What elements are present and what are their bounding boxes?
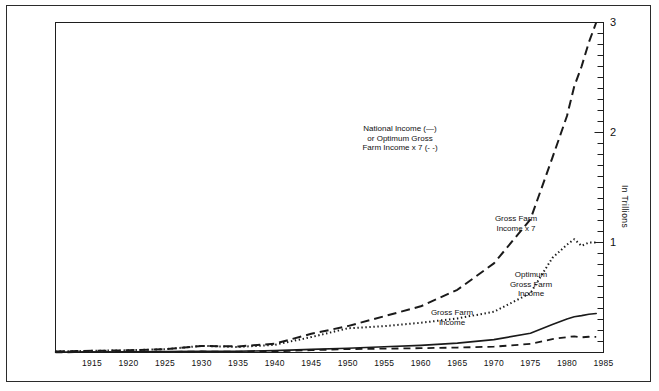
x-axis-tick-label: 1915 bbox=[72, 358, 112, 368]
x-axis-tick-label: 1935 bbox=[218, 358, 258, 368]
x-axis-tick-label: 1960 bbox=[401, 358, 441, 368]
y-axis-tick-label: 2 bbox=[610, 126, 624, 138]
y-axis-tick-label: 3 bbox=[610, 16, 624, 28]
figure-container: 1915192019251930193519401945195019551960… bbox=[0, 0, 659, 391]
x-axis-tick-label: 1925 bbox=[145, 358, 185, 368]
x-axis-tick-label: 1980 bbox=[547, 358, 587, 368]
plot-area-border bbox=[56, 23, 604, 353]
x-axis-tick-label: 1985 bbox=[584, 358, 624, 368]
x-axis-tick-label: 1940 bbox=[255, 358, 295, 368]
x-axis-tick-label: 1920 bbox=[109, 358, 149, 368]
gross-farm-income-label: Gross Farm Income bbox=[407, 308, 497, 327]
x-axis-tick-label: 1970 bbox=[474, 358, 514, 368]
x-axis-tick-label: 1955 bbox=[364, 358, 404, 368]
optimum-gross-farm-income-label: Optimum Gross Farm Income bbox=[486, 270, 576, 299]
x-axis-tick-label: 1950 bbox=[328, 358, 368, 368]
x-axis-tick-label: 1975 bbox=[510, 358, 550, 368]
national-income-label: National Income (—) or Optimum Gross Far… bbox=[355, 124, 445, 153]
x-axis-tick-label: 1945 bbox=[291, 358, 331, 368]
x-axis-tick-label: 1965 bbox=[437, 358, 477, 368]
y-axis-title: In Trillions bbox=[620, 185, 630, 228]
y-axis-tick-label: 1 bbox=[610, 236, 624, 248]
chart-plot bbox=[0, 0, 659, 391]
gross-farm-income-x7-label: Gross Farm Income x 7 bbox=[471, 214, 561, 233]
x-axis-tick-label: 1930 bbox=[182, 358, 222, 368]
